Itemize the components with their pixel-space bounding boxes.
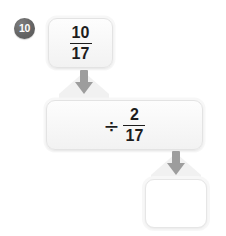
divisor-denominator: 17 (125, 126, 145, 144)
operator-expression: ÷ 2 17 (104, 107, 146, 144)
dividend-numerator: 10 (71, 25, 91, 43)
division-sign: ÷ (104, 117, 120, 136)
operator-tile: ÷ 2 17 (46, 100, 203, 150)
problem-number-badge: 10 (14, 18, 35, 39)
connector-dividend-to-operator (57, 68, 111, 100)
worksheet-problem-canvas: 10 10 17 ÷ 2 17 (0, 0, 226, 236)
connector-operator-to-answer (149, 149, 203, 181)
dividend-fraction: 10 17 (70, 25, 92, 62)
dividend-expression: 10 17 (70, 25, 92, 62)
dividend-denominator: 17 (71, 44, 91, 62)
divisor-fraction: 2 17 (123, 107, 145, 144)
answer-tile[interactable] (145, 179, 207, 228)
dividend-tile: 10 17 (48, 18, 113, 68)
divisor-numerator: 2 (129, 107, 140, 125)
